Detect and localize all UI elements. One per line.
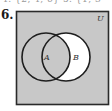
universe-label: U [97, 14, 104, 23]
set-a-label: A [43, 53, 50, 62]
venn-diagram: A B U [0, 0, 112, 111]
set-b-label: B [72, 53, 79, 62]
